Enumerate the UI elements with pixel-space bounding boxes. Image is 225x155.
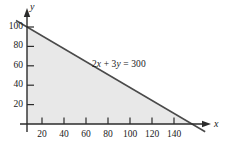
- x-tick-label-60: 60: [81, 130, 91, 140]
- y-tick-label-80: 80: [14, 42, 24, 52]
- y-tick-label-20: 20: [14, 100, 24, 110]
- x-tick-label-120: 120: [145, 130, 159, 140]
- constraint-equation-label: 2x + 3y = 300: [92, 60, 146, 70]
- equation-plus: +: [101, 59, 111, 69]
- x-axis-arrowhead: [202, 121, 211, 127]
- y-tick-label-60: 60: [14, 61, 24, 71]
- y-tick-label-100: 100: [9, 22, 23, 32]
- x-tick-label-20: 20: [37, 130, 47, 140]
- graph-figure: 100 80 60 40 20 20 40 60 80 100 120 140 …: [0, 0, 225, 155]
- x-tick-label-100: 100: [123, 130, 137, 140]
- x-tick-label-80: 80: [103, 130, 113, 140]
- x-tick-label-40: 40: [59, 130, 69, 140]
- x-tick-label-140: 140: [167, 130, 181, 140]
- x-axis-label: x: [214, 119, 218, 129]
- equation-constant: 300: [131, 59, 146, 69]
- y-axis-label: y: [30, 2, 34, 12]
- equation-equals: =: [121, 59, 131, 69]
- y-tick-label-40: 40: [14, 80, 24, 90]
